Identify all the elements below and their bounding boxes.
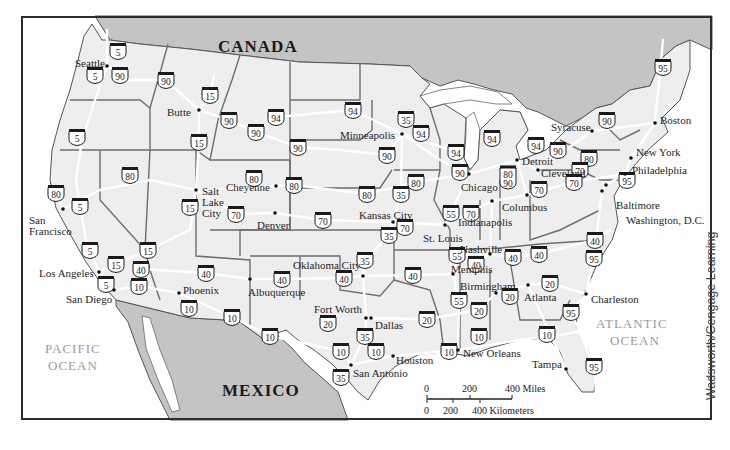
interstate-shield-icon: 10 (539, 326, 555, 343)
city-label: Boston (660, 114, 692, 126)
interstate-shield-icon: 90 (599, 112, 615, 129)
city-marker: Nashville (460, 243, 502, 256)
interstate-shield-icon: 10 (224, 309, 240, 326)
interstate-shield-icon: 90 (112, 67, 128, 84)
svg-text:70: 70 (534, 186, 544, 196)
interstate-shield-icon: 90 (290, 139, 306, 156)
city-dot-icon (653, 121, 657, 125)
interstate-shield-icon: 10 (368, 343, 384, 360)
interstate-shield-icon: 10 (262, 328, 278, 345)
svg-text:55: 55 (454, 297, 464, 307)
city-label: Baltimore (616, 199, 660, 211)
city-dot-icon (600, 189, 604, 193)
interstate-shield-icon: 40 (587, 232, 603, 249)
svg-text:90: 90 (293, 144, 303, 154)
interstate-shield-icon: 70 (315, 212, 331, 229)
svg-text:94: 94 (531, 142, 541, 152)
svg-text:40: 40 (136, 266, 146, 276)
svg-text:94: 94 (416, 130, 426, 140)
city-label: Kansas City (359, 209, 413, 221)
svg-text:10: 10 (474, 333, 484, 343)
svg-text:5: 5 (78, 203, 83, 213)
city-dot-icon (97, 270, 101, 274)
svg-text:90: 90 (602, 117, 612, 127)
svg-text:40: 40 (590, 237, 600, 247)
city-label: Chicago (461, 181, 498, 193)
city-dot-icon (456, 348, 460, 352)
svg-text:35: 35 (396, 191, 406, 201)
svg-text:94: 94 (348, 107, 358, 117)
city-dot-icon (564, 367, 568, 371)
interstate-shield-icon: 94 (345, 102, 361, 119)
city-dot-icon (443, 223, 447, 227)
city-label: Memphis (451, 263, 493, 275)
interstate-shield-icon: 8090 (500, 166, 516, 190)
interstate-shield-icon: 70 (228, 206, 244, 223)
svg-text:94: 94 (487, 135, 497, 145)
interstate-shield-icon: 80 (359, 186, 375, 203)
svg-text:70: 70 (400, 224, 410, 234)
interstate-shield-icon: 10 (441, 343, 457, 360)
city-marker: Charleston (584, 292, 639, 305)
city-label: Albuquerque (248, 286, 306, 298)
interstate-shield-icon: 40 (198, 265, 214, 282)
svg-text:35: 35 (384, 232, 394, 242)
svg-text:80: 80 (51, 190, 61, 200)
svg-text:35: 35 (401, 116, 411, 126)
interstate-shield-icon: 20 (471, 302, 487, 319)
country-label-mexico: MEXICO (222, 381, 300, 400)
interstate-shield-icon: 5 (87, 67, 103, 84)
scale-miles-400: 400 Miles (505, 383, 545, 394)
interstate-shield-icon: 5 (72, 198, 88, 215)
city-label: Oklahoma City (293, 259, 361, 271)
interstate-shield-icon: 90 (452, 164, 468, 181)
svg-text:90: 90 (455, 169, 465, 179)
interstate-shield-icon: 35 (393, 186, 409, 203)
interstate-shield-icon: 5 (82, 242, 98, 259)
city-marker: New York (629, 146, 681, 160)
svg-text:10: 10 (336, 348, 346, 358)
city-dot-icon (369, 316, 373, 320)
ocean-label-pacific-line2: OCEAN (48, 358, 98, 373)
svg-text:90: 90 (503, 179, 513, 189)
city-label: Dallas (375, 319, 403, 331)
city-dot-icon (194, 188, 198, 192)
city-label: Philadelphia (632, 164, 687, 176)
city-dot-icon (526, 283, 530, 287)
svg-text:35: 35 (360, 333, 370, 343)
city-dot-icon (604, 183, 608, 187)
svg-text:10: 10 (265, 333, 275, 343)
interstate-shield-icon: 94 (484, 130, 500, 147)
city-label: Atlanta (524, 291, 556, 303)
svg-text:15: 15 (185, 204, 195, 214)
city-label: Columbus (502, 201, 547, 213)
interstate-shield-icon: 40 (133, 261, 149, 278)
city-dot-icon (629, 156, 633, 160)
svg-text:40: 40 (408, 272, 418, 282)
interstate-shield-icon: 10 (471, 328, 487, 345)
svg-text:10: 10 (444, 348, 454, 358)
city-label: New York (636, 146, 681, 158)
interstate-shield-icon: 20 (320, 315, 336, 332)
svg-text:70: 70 (318, 217, 328, 227)
interstate-shield-icon: 5 (98, 276, 114, 293)
svg-text:20: 20 (545, 280, 555, 290)
svg-text:40: 40 (277, 276, 287, 286)
svg-text:80: 80 (125, 172, 135, 182)
interstate-shield-icon: 40 (405, 267, 421, 284)
city-label: Detroit (522, 155, 553, 167)
svg-text:90: 90 (382, 152, 392, 162)
city-dot-icon (105, 64, 109, 68)
svg-text:90: 90 (553, 147, 563, 157)
city-marker: Cleveland (536, 167, 586, 179)
svg-text:55: 55 (446, 210, 456, 220)
svg-text:95: 95 (658, 64, 668, 74)
svg-text:5: 5 (104, 281, 109, 291)
city-label: New Orleans (463, 347, 521, 359)
svg-text:40: 40 (508, 254, 518, 264)
svg-text:90: 90 (161, 77, 171, 87)
interstate-shield-icon: 90 (221, 112, 237, 129)
svg-text:70: 70 (231, 211, 241, 221)
interstate-shield-icon: 55 (443, 205, 459, 222)
city-label: St. Louis (423, 232, 463, 244)
